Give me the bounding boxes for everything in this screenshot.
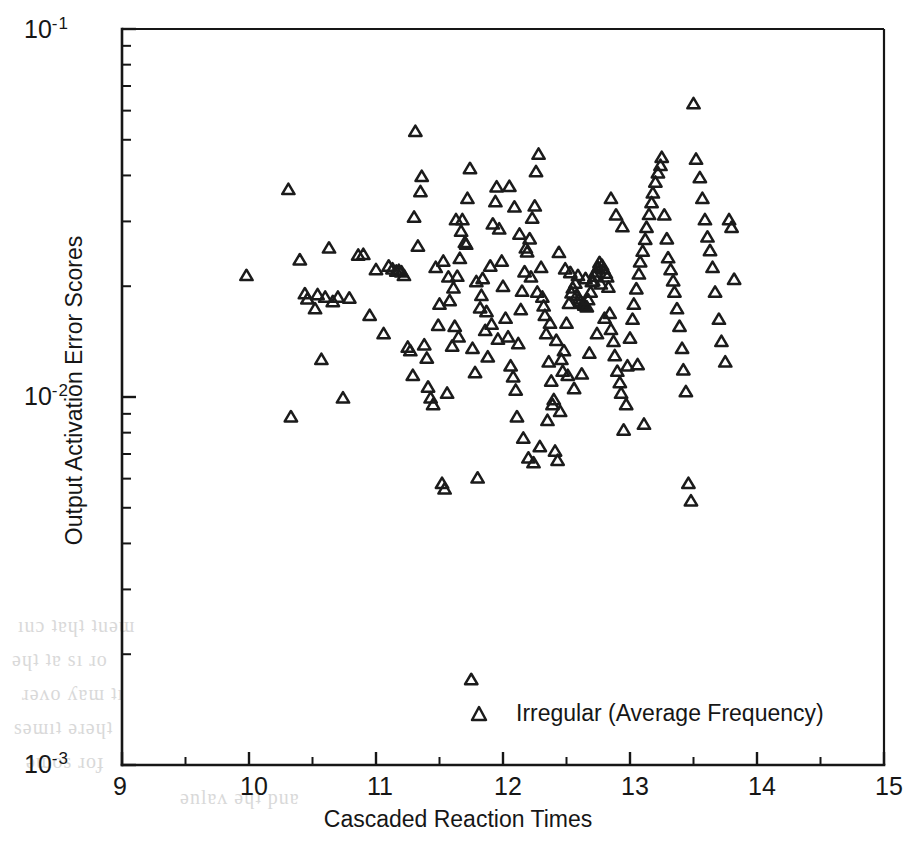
x-axis-title: Cascaded Reaction Times — [0, 806, 916, 833]
data-point-marker — [513, 228, 525, 238]
data-point-marker — [668, 286, 680, 296]
data-point-marker — [490, 181, 502, 191]
data-point-marker — [662, 252, 674, 262]
data-point-marker — [407, 370, 419, 380]
data-point-marker — [441, 387, 453, 397]
data-point-marker — [442, 271, 454, 281]
data-point-marker — [616, 221, 628, 231]
data-point-marker — [530, 166, 542, 176]
data-point-marker — [427, 399, 439, 409]
data-point-marker — [540, 328, 552, 338]
data-point-marker — [607, 336, 619, 346]
data-point-marker — [640, 222, 652, 232]
data-point-marker — [503, 181, 515, 191]
data-point-marker — [282, 184, 294, 194]
data-point-marker — [630, 283, 642, 293]
data-point-marker — [610, 209, 622, 219]
data-point-marker — [673, 321, 685, 331]
data-point-marker — [560, 317, 572, 327]
data-point-marker — [337, 392, 349, 402]
x-tick-label-11: 11 — [367, 772, 393, 801]
data-point-marker — [504, 360, 516, 370]
data-point-marker — [471, 472, 483, 482]
data-point-marker — [421, 352, 433, 362]
data-point-marker — [534, 441, 546, 451]
data-point-marker — [626, 313, 638, 323]
data-point-marker — [624, 332, 636, 342]
data-point-marker — [620, 399, 632, 409]
data-point-marker — [489, 196, 501, 206]
data-point-marker — [704, 245, 716, 255]
data-point-marker — [323, 242, 335, 252]
data-point-marker — [315, 354, 327, 364]
data-point-marker — [658, 209, 670, 219]
data-point-marker — [437, 255, 449, 265]
data-point-marker — [418, 339, 430, 349]
x-tick-label-12: 12 — [494, 772, 522, 801]
data-point-marker — [499, 312, 511, 322]
data-point-marker — [482, 351, 494, 361]
data-point-marker — [464, 163, 476, 173]
data-point-marker — [363, 310, 375, 320]
data-point-marker — [531, 286, 543, 296]
data-point-marker — [240, 270, 252, 280]
data-point-marker — [469, 367, 481, 377]
data-point-marker — [432, 319, 444, 329]
data-point-marker — [496, 255, 508, 265]
data-point-marker — [549, 445, 561, 455]
data-point-marker — [409, 126, 421, 136]
data-point-marker — [676, 343, 688, 353]
data-point-markers — [240, 98, 740, 684]
data-point-marker — [370, 264, 382, 274]
data-point-marker — [465, 674, 477, 684]
data-point-marker — [637, 245, 649, 255]
data-point-marker — [687, 98, 699, 108]
data-point-marker — [455, 225, 467, 235]
data-point-marker — [443, 295, 455, 305]
data-point-marker — [694, 172, 706, 182]
data-point-marker — [628, 298, 640, 308]
data-point-marker — [713, 313, 725, 323]
legend-label-irregular: Irregular (Average Frequency) — [516, 700, 824, 727]
x-tick-label-9: 9 — [113, 772, 127, 801]
data-point-marker — [609, 350, 621, 360]
data-point-marker — [416, 171, 428, 181]
x-tick-label-10: 10 — [240, 772, 268, 801]
data-point-marker — [685, 495, 697, 505]
data-point-marker — [454, 253, 466, 263]
data-point-marker — [568, 383, 580, 393]
data-point-marker — [492, 333, 504, 343]
data-point-marker — [466, 343, 478, 353]
data-point-marker — [680, 386, 692, 396]
legend-triangle-up-icon — [468, 703, 490, 725]
y-tick-label-1e-3: 10-3 — [24, 749, 69, 779]
data-point-marker — [408, 211, 420, 221]
data-point-marker — [699, 214, 711, 224]
data-point-marker — [576, 368, 588, 378]
data-point-marker — [591, 328, 603, 338]
data-point-marker — [515, 304, 527, 314]
data-point-marker — [661, 233, 673, 243]
data-point-marker — [485, 318, 497, 328]
data-point-marker — [558, 345, 570, 355]
data-point-marker — [543, 356, 555, 366]
data-point-marker — [294, 254, 306, 264]
data-point-marker — [671, 303, 683, 313]
data-point-marker — [701, 231, 713, 241]
data-point-marker — [497, 281, 509, 291]
data-point-marker — [709, 286, 721, 296]
data-point-marker — [285, 411, 297, 421]
data-point-marker — [652, 167, 664, 177]
data-point-marker — [554, 406, 566, 416]
data-point-marker — [529, 200, 541, 210]
data-point-marker — [452, 331, 464, 341]
data-point-marker — [475, 290, 487, 300]
data-point-marker — [517, 432, 529, 442]
data-point-marker — [614, 377, 626, 387]
data-point-marker — [502, 331, 514, 341]
data-point-marker — [682, 478, 694, 488]
data-point-marker — [605, 324, 617, 334]
data-point-marker — [639, 234, 651, 244]
data-point-marker — [516, 285, 528, 295]
data-point-marker — [631, 359, 643, 369]
